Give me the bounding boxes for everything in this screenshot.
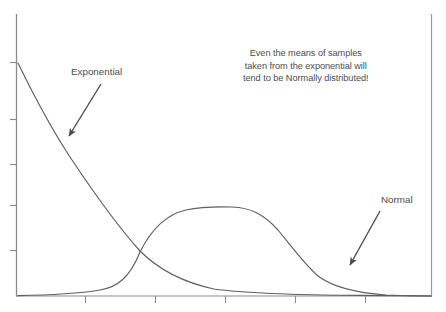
note-line-3: tend to be Normally distributed! bbox=[243, 72, 369, 85]
exponential-curve bbox=[18, 63, 431, 296]
exponential-arrow bbox=[69, 84, 101, 136]
y-axis-ticks bbox=[10, 63, 16, 251]
normal-curve-label: Normal bbox=[381, 194, 413, 205]
distribution-comparison-figure: Even the means of samples taken from the… bbox=[0, 0, 446, 312]
normal-curve bbox=[18, 207, 431, 296]
x-axis-ticks bbox=[86, 296, 366, 303]
note-callout: Even the means of samples taken from the… bbox=[243, 47, 369, 85]
normal-arrow bbox=[350, 211, 380, 265]
plot-canvas bbox=[0, 0, 446, 312]
note-line-2: taken from the exponential will bbox=[243, 60, 369, 73]
exponential-curve-label: Exponential bbox=[71, 66, 122, 77]
note-line-1: Even the means of samples bbox=[243, 47, 369, 60]
